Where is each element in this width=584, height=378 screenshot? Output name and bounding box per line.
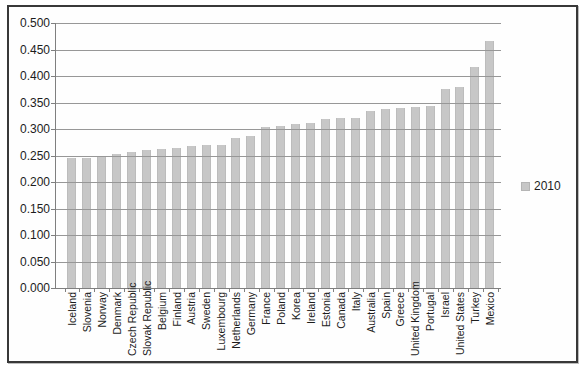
- bar-ireland: [306, 123, 315, 288]
- x-axis-label-finland: Finland: [171, 292, 183, 356]
- bar-netherlands: [231, 138, 240, 288]
- x-axis-label-israel: Israel: [439, 292, 451, 356]
- bar-iceland: [67, 158, 76, 288]
- bar-slovak-republic: [142, 150, 151, 288]
- gridline-0.100: [55, 235, 501, 236]
- x-axis-label-austria: Austria: [185, 292, 197, 356]
- legend: 2010: [521, 179, 561, 193]
- x-axis-label-spain: Spain: [380, 292, 392, 356]
- bar-canada: [336, 118, 345, 288]
- gridline-0.400: [55, 76, 501, 77]
- bar-mexico: [485, 41, 494, 288]
- x-axis-label-estonia: Estonia: [320, 292, 332, 356]
- y-axis-label-0.200: 0.200: [0, 175, 50, 189]
- x-axis-label-norway: Norway: [96, 292, 108, 356]
- bar-united-states: [455, 87, 464, 288]
- bar-estonia: [321, 119, 330, 288]
- bar-sweden: [202, 145, 211, 288]
- y-axis-label-0.100: 0.100: [0, 228, 50, 242]
- bar-finland: [172, 148, 181, 288]
- x-axis-line: [51, 288, 501, 289]
- x-axis-label-ireland: Ireland: [305, 292, 317, 356]
- y-axis-label-0.050: 0.050: [0, 255, 50, 269]
- y-axis-label-0.250: 0.250: [0, 149, 50, 163]
- bar-belgium: [157, 149, 166, 288]
- x-axis-label-mexico: Mexico: [484, 292, 496, 356]
- bar-poland: [276, 126, 285, 288]
- bar-luxembourg: [217, 145, 226, 288]
- gridline-0.350: [55, 103, 501, 104]
- x-axis-label-australia: Australia: [365, 292, 377, 356]
- x-axis-label-greece: Greece: [394, 292, 406, 356]
- x-axis-label-italy: Italy: [350, 292, 362, 356]
- legend-label-2010: 2010: [534, 179, 561, 193]
- bar-czech-republic: [127, 152, 136, 288]
- x-axis-label-czech-republic: Czech Republic: [126, 292, 138, 356]
- y-axis-label-0.500: 0.500: [0, 16, 50, 30]
- x-axis-label-denmark: Denmark: [111, 292, 123, 356]
- x-axis-label-france: France: [260, 292, 272, 356]
- y-axis-label-0.350: 0.350: [0, 96, 50, 110]
- bar-slovenia: [82, 158, 91, 288]
- gridline-0.450: [55, 50, 501, 51]
- x-axis-label-sweden: Sweden: [200, 292, 212, 356]
- y-axis-label-0.300: 0.300: [0, 122, 50, 136]
- y-axis-label-0.150: 0.150: [0, 202, 50, 216]
- x-axis-label-united-kingdom: United Kingdom: [409, 292, 421, 356]
- gridline-0.500: [55, 23, 501, 24]
- x-axis-label-slovenia: Slovenia: [81, 292, 93, 356]
- y-axis-label-0.450: 0.450: [0, 43, 50, 57]
- bar-austria: [187, 146, 196, 288]
- bar-korea: [291, 124, 300, 288]
- y-axis-line: [55, 23, 56, 289]
- x-axis-label-turkey: Turkey: [469, 292, 481, 356]
- x-axis-label-slovak-republic: Slovak Republic: [141, 292, 153, 356]
- y-axis-label-0.400: 0.400: [0, 69, 50, 83]
- chart-screenshot: 0.0000.0500.1000.1500.2000.2500.3000.350…: [0, 0, 584, 378]
- x-axis-label-iceland: Iceland: [66, 292, 78, 356]
- bar-denmark: [112, 154, 121, 288]
- bar-turkey: [470, 67, 479, 288]
- gridline-0.250: [55, 156, 501, 157]
- x-axis-label-netherlands: Netherlands: [230, 292, 242, 356]
- y-axis-label-0.000: 0.000: [0, 281, 50, 295]
- gridline-0.200: [55, 182, 501, 183]
- x-axis-label-poland: Poland: [275, 292, 287, 356]
- gridline-0.150: [55, 209, 501, 210]
- bar-norway: [97, 156, 106, 288]
- x-axis-label-korea: Korea: [290, 292, 302, 356]
- x-axis-label-portugal: Portugal: [424, 292, 436, 356]
- x-axis-label-united-states: United States: [454, 292, 466, 356]
- gridline-0.300: [55, 129, 501, 130]
- x-axis-label-luxembourg: Luxembourg: [215, 292, 227, 356]
- gridline-0.050: [55, 262, 501, 263]
- bar-israel: [441, 89, 450, 288]
- x-axis-label-belgium: Belgium: [156, 292, 168, 356]
- legend-swatch-2010: [521, 182, 530, 191]
- x-axis-label-canada: Canada: [335, 292, 347, 356]
- x-axis-label-germany: Germany: [245, 292, 257, 356]
- bar-germany: [246, 136, 255, 288]
